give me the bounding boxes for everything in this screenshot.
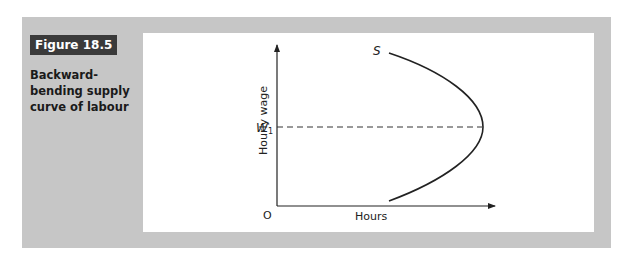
chart-area: S W1 O Hours Hourly wage: [143, 33, 594, 232]
figure-number-badge: Figure 18.5: [30, 35, 117, 55]
curve-label-s: S: [373, 44, 381, 58]
figure-caption: Backward-bending supply curve of labour: [30, 67, 142, 115]
supply-curve-chart: S W1 O Hours Hourly wage: [143, 33, 594, 232]
x-axis-label: Hours: [355, 210, 387, 223]
origin-label: O: [263, 209, 272, 222]
y-axis-label: Hourly wage: [257, 86, 270, 155]
